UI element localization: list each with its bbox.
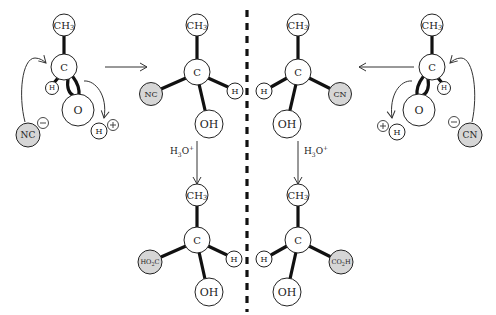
- carbon-label: C: [193, 67, 201, 78]
- hydrogen-label: H: [231, 255, 238, 264]
- hydrogen-label: H: [232, 87, 239, 96]
- proton-label: H: [96, 127, 103, 136]
- hydrogen-label: H: [49, 84, 55, 92]
- carbon-label: C: [193, 235, 201, 246]
- nitrile-label: CN: [333, 90, 346, 99]
- oxygen-label: O: [414, 104, 423, 117]
- acid-label: HO2C: [140, 258, 159, 267]
- right-product-molecule: CH3 C H CO2H OH: [256, 184, 353, 306]
- left-product-molecule: CH3 C HO2C H OH: [138, 184, 242, 306]
- cyanide-label: CN: [463, 130, 478, 140]
- hydroxyl-label: OH: [278, 118, 297, 131]
- hydrogen-label: H: [261, 255, 268, 264]
- acid-label: CO2H: [331, 258, 351, 267]
- hydroxyl-label: OH: [278, 286, 297, 299]
- carbon-label: C: [294, 235, 302, 246]
- left-start-molecule: CH3 C H O NC H: [16, 14, 119, 147]
- hydroxyl-label: OH: [200, 118, 219, 131]
- oxygen-label: O: [73, 104, 82, 117]
- carbon-label: C: [428, 62, 436, 73]
- nitrile-label: NC: [144, 90, 157, 99]
- reaction-diagram: CH3 C H O NC H CH3 C NC H OH: [0, 0, 496, 315]
- right-cyanohydrin-molecule: CH3 C H CN OH: [256, 14, 352, 138]
- reagent-label-left: H3O+: [170, 144, 194, 158]
- curly-arrow-nucleophile-attack: [22, 58, 46, 122]
- curly-arrow-nucleophile-attack: [450, 58, 475, 122]
- right-start-molecule: CH3 C H O CN H: [378, 14, 483, 147]
- hydroxyl-label: OH: [200, 286, 219, 299]
- proton-label: H: [394, 128, 401, 137]
- reagent-label-right: H3O+: [304, 144, 328, 158]
- hydrogen-label: H: [441, 84, 447, 92]
- left-cyanohydrin-molecule: CH3 C NC H OH: [140, 14, 244, 138]
- carbon-label: C: [294, 67, 302, 78]
- hydrogen-label: H: [261, 87, 268, 96]
- cyanide-label: NC: [21, 130, 36, 140]
- carbon-label: C: [60, 62, 68, 73]
